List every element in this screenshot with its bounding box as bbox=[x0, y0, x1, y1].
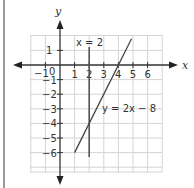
x-tick-label: 1 bbox=[72, 69, 78, 80]
line-y-equals-2x-minus-8-label: y = 2x − 8 bbox=[102, 103, 156, 114]
y-axis-down-arrow-icon bbox=[57, 176, 64, 185]
x-axis-left-arrow-icon bbox=[13, 62, 22, 69]
x-axis-label: x bbox=[182, 59, 189, 72]
line-y-equals-2x-minus-8 bbox=[75, 39, 132, 153]
y-tick-label: −5 bbox=[42, 133, 57, 144]
y-tick-label: −2 bbox=[42, 89, 57, 100]
line-x-equals-2-label: x = 2 bbox=[76, 37, 103, 48]
coordinate-plane: y x −1 0 1 2 3 4 5 6 1 −1 −2 −3 −4 −5 −6… bbox=[0, 0, 194, 188]
y-tick-labels: 1 −1 −2 −3 −4 −5 −6 bbox=[42, 45, 57, 159]
y-tick-label: −6 bbox=[42, 148, 57, 159]
y-axis-label: y bbox=[54, 5, 62, 18]
y-tick-label: −4 bbox=[42, 118, 57, 129]
x-tick-label: 6 bbox=[144, 69, 150, 80]
y-axis-up-arrow-icon bbox=[57, 20, 64, 29]
x-tick-label: 3 bbox=[101, 69, 107, 80]
x-tick-label: 5 bbox=[130, 69, 136, 80]
y-axis bbox=[57, 20, 64, 185]
y-tick-label: 1 bbox=[46, 45, 52, 56]
y-tick-label: −1 bbox=[42, 75, 57, 86]
y-tick-label: −3 bbox=[42, 104, 57, 115]
x-axis-right-arrow-icon bbox=[169, 62, 178, 69]
